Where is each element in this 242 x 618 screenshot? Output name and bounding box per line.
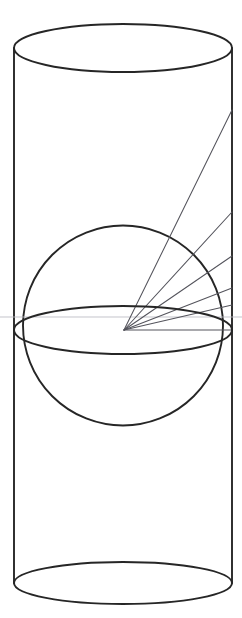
sphere-outline — [23, 226, 223, 426]
geometry-diagram — [0, 0, 242, 618]
sphere — [23, 226, 223, 426]
figure-canvas — [0, 0, 242, 618]
